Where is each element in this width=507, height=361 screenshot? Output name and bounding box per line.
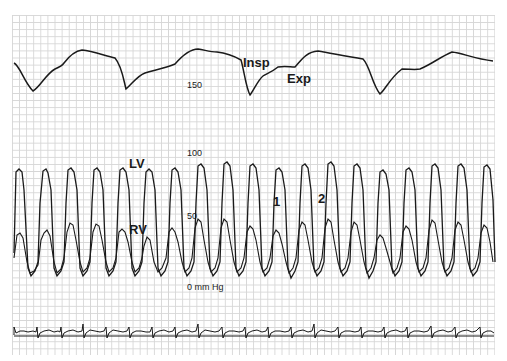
lv-label: LV <box>129 156 145 171</box>
rv-pressure-trace <box>14 219 493 273</box>
scale-label-zero: 0 mm Hg <box>187 282 224 292</box>
exp-label: Exp <box>287 71 311 86</box>
rv-label: RV <box>129 222 147 237</box>
insp-label: Insp <box>243 55 270 70</box>
scale-label-150: 150 <box>187 80 202 90</box>
beat-marker-2: 2 <box>318 191 325 206</box>
beat-marker-1: 1 <box>273 194 280 209</box>
scale-label-100: 100 <box>187 148 202 158</box>
lv-pressure-trace <box>14 162 495 278</box>
scale-label-50: 50 <box>187 211 197 221</box>
